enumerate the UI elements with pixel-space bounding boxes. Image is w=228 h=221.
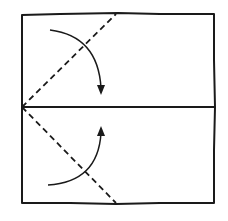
- fold-down-arrow-icon: [50, 30, 105, 95]
- fold-up-arrow-icon: [48, 126, 105, 185]
- paper-square-outline: [22, 13, 215, 204]
- top-valley-fold-line: [22, 14, 116, 107]
- bottom-valley-fold-line: [22, 107, 116, 203]
- origami-fold-diagram: [0, 0, 228, 221]
